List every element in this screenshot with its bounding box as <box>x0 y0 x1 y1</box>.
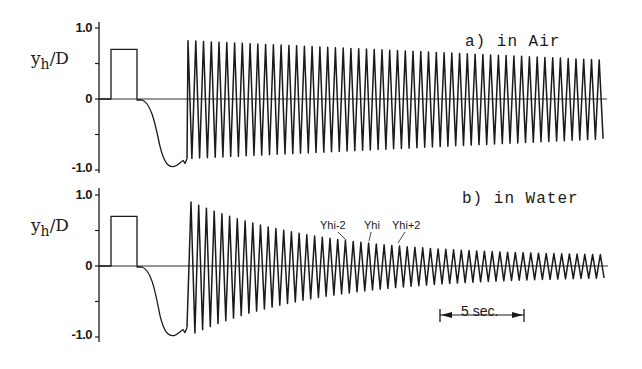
ylabel-main: y <box>31 48 41 68</box>
annotation-yhi: Yhi <box>364 219 380 231</box>
y-axis-label-air: yh/D <box>31 48 69 72</box>
annotation-yhi-plus-2: Yhi+2 <box>392 219 420 231</box>
annotation-leader <box>369 232 371 241</box>
y-axis-label-water: yh/D <box>31 215 69 239</box>
y-tick-air-mid: 0 <box>52 91 92 106</box>
annotation-yhi-minus-2: Yhi-2 <box>320 219 346 231</box>
y-tick-air-top: 1.0 <box>52 20 92 35</box>
panel-title-water: b) in Water <box>462 190 579 208</box>
ylabel-sub: h <box>41 56 50 72</box>
ylabel-tail: /D <box>50 48 69 68</box>
figure: yh/D 1.0 0 -1.0 a) in Air yh/D 1.0 0 -1.… <box>0 0 642 369</box>
time-scale-label: 5 sec. <box>461 303 498 319</box>
annotation-leader <box>398 232 405 243</box>
panel-title-air: a) in Air <box>465 33 560 51</box>
annotation-leader <box>338 232 346 240</box>
y-tick-water-bot: -1.0 <box>52 327 92 342</box>
oscillation-trace-air <box>187 41 603 159</box>
release-trace-water <box>99 216 187 335</box>
release-trace-air <box>99 49 187 166</box>
plot-canvas <box>0 0 642 369</box>
scale-bar-arrow-right <box>512 312 523 318</box>
y-tick-water-mid: 0 <box>52 258 92 273</box>
ylabel-main: y <box>31 215 41 235</box>
y-tick-water-top: 1.0 <box>52 187 92 202</box>
ylabel-tail: /D <box>50 215 69 235</box>
scale-bar-arrow-left <box>441 312 452 318</box>
y-tick-air-bot: -1.0 <box>52 160 92 175</box>
ylabel-sub: h <box>41 223 50 239</box>
